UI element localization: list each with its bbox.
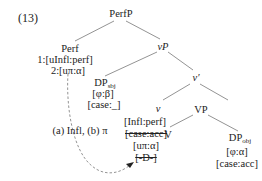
- node-perf: Perf: [61, 43, 79, 54]
- dp-obj-feature: [case:acc]: [216, 158, 258, 169]
- dp-subj-feature: [φ:β]: [92, 88, 113, 99]
- branch-vp-dpobj: [208, 115, 238, 131]
- node-dp-obj: DPobj: [229, 132, 251, 147]
- branch-perfp-vp: [126, 21, 160, 39]
- branch-vp-vbar: [168, 52, 193, 70]
- perf-feature-2: 2:[uπ:α]: [51, 65, 85, 76]
- v-feature: [uπ:α]: [133, 140, 159, 151]
- dp-obj-label: DP: [229, 132, 242, 143]
- branch-vp-V: [170, 115, 193, 127]
- v-feature: [Infl:perf]: [124, 116, 166, 127]
- example-number: (13): [18, 13, 38, 24]
- v-feature-struck: [case:acc]: [125, 128, 167, 139]
- node-v: v: [156, 103, 161, 114]
- agree-annotation: (a) Infl, (b) π: [53, 125, 108, 136]
- node-VP: VP: [194, 104, 207, 115]
- node-v-bar: v′: [193, 72, 200, 83]
- dp-obj-subscript: obj: [242, 137, 251, 145]
- tree-branches: [0, 0, 262, 181]
- dp-subj-label: DP: [94, 77, 107, 88]
- branch-perfp-perf: [75, 21, 114, 41]
- branch-vbar-vp: [200, 84, 228, 100]
- perf-feature-1: 1:[uInfl:perf]: [37, 54, 92, 65]
- node-perfp: PerfP: [109, 8, 132, 19]
- dp-obj-feature: [φ:α]: [226, 146, 247, 157]
- dp-subj-feature: [case:_]: [87, 99, 120, 110]
- branch-vbar-v: [163, 84, 190, 100]
- node-V: V: [164, 129, 172, 140]
- branch-vp-dpsubj: [105, 52, 157, 76]
- v-feature-struck: [-D-]: [135, 152, 157, 163]
- node-vp: vP: [157, 41, 168, 52]
